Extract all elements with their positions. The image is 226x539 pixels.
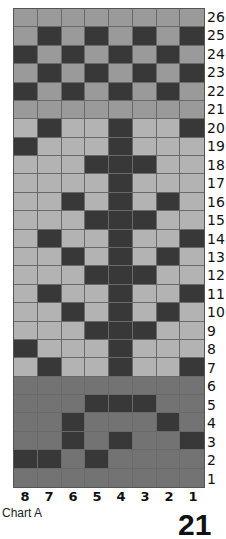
row-number: 17 xyxy=(207,174,226,192)
chart-cell xyxy=(133,193,157,211)
chart-cell xyxy=(157,83,181,101)
chart-cell xyxy=(14,119,38,137)
chart-cell xyxy=(180,211,204,229)
chart-cell xyxy=(133,469,157,487)
chart-cell xyxy=(133,119,157,137)
row-numbers: 2625242322212019181716151413121110987654… xyxy=(207,8,226,488)
chart-cell xyxy=(62,174,86,192)
chart-cell xyxy=(14,358,38,376)
chart-cell xyxy=(157,266,181,284)
row-number: 23 xyxy=(207,63,226,81)
chart-cell xyxy=(133,156,157,174)
chart-cell xyxy=(14,101,38,119)
chart-cell xyxy=(14,46,38,64)
chart-cell xyxy=(62,395,86,413)
chart-cell xyxy=(14,193,38,211)
chart-cell xyxy=(14,156,38,174)
chart-cell xyxy=(14,27,38,45)
chart-cell xyxy=(133,27,157,45)
chart-cell xyxy=(180,46,204,64)
chart-cell xyxy=(109,83,133,101)
column-number: 2 xyxy=(157,489,181,504)
chart-cell xyxy=(180,322,204,340)
chart-cell xyxy=(38,377,62,395)
chart-cell xyxy=(180,450,204,468)
chart-cell xyxy=(85,285,109,303)
chart-cell xyxy=(133,46,157,64)
chart-cell xyxy=(180,266,204,284)
chart-cell xyxy=(133,377,157,395)
chart-cell xyxy=(62,138,86,156)
chart-cell xyxy=(109,469,133,487)
chart-cell xyxy=(109,211,133,229)
chart-cell xyxy=(133,340,157,358)
chart-cell xyxy=(62,64,86,82)
chart-cell xyxy=(38,64,62,82)
chart-cell xyxy=(180,413,204,431)
chart-cell xyxy=(85,138,109,156)
chart-cell xyxy=(38,230,62,248)
chart-cell xyxy=(157,248,181,266)
chart-cell xyxy=(133,413,157,431)
chart-cell xyxy=(85,174,109,192)
chart-cell xyxy=(157,156,181,174)
chart-cell xyxy=(180,119,204,137)
chart-cell xyxy=(85,303,109,321)
row-number: 22 xyxy=(207,82,226,100)
chart-cell xyxy=(62,27,86,45)
chart-cell xyxy=(14,266,38,284)
chart-cell xyxy=(157,469,181,487)
chart-caption: Chart A xyxy=(2,506,42,520)
chart-cell xyxy=(85,340,109,358)
row-number: 19 xyxy=(207,137,226,155)
chart-cell xyxy=(109,138,133,156)
row-number: 15 xyxy=(207,211,226,229)
chart-cell xyxy=(133,9,157,27)
chart-cell xyxy=(180,248,204,266)
chart-cell xyxy=(14,230,38,248)
column-number: 8 xyxy=(13,489,37,504)
knitting-chart xyxy=(13,8,205,488)
chart-cell xyxy=(109,193,133,211)
chart-cell xyxy=(157,138,181,156)
chart-cell xyxy=(62,266,86,284)
chart-cell xyxy=(85,358,109,376)
chart-cell xyxy=(133,285,157,303)
chart-cell xyxy=(157,174,181,192)
chart-cell xyxy=(157,211,181,229)
chart-cell xyxy=(109,156,133,174)
chart-cell xyxy=(157,285,181,303)
chart-cell xyxy=(109,340,133,358)
chart-cell xyxy=(109,377,133,395)
chart-cell xyxy=(109,266,133,284)
chart-cell xyxy=(133,358,157,376)
chart-cell xyxy=(133,432,157,450)
chart-cell xyxy=(133,322,157,340)
chart-cell xyxy=(62,248,86,266)
chart-cell xyxy=(109,174,133,192)
chart-cell xyxy=(62,119,86,137)
chart-cell xyxy=(14,395,38,413)
chart-cell xyxy=(109,395,133,413)
chart-cell xyxy=(14,211,38,229)
chart-cell xyxy=(109,27,133,45)
page-number: 21 xyxy=(178,510,211,539)
chart-cell xyxy=(14,174,38,192)
chart-cell xyxy=(109,46,133,64)
chart-cell xyxy=(180,432,204,450)
chart-cell xyxy=(180,285,204,303)
chart-cell xyxy=(133,101,157,119)
chart-cell xyxy=(62,303,86,321)
chart-cell xyxy=(62,285,86,303)
chart-cell xyxy=(14,64,38,82)
row-number: 10 xyxy=(207,303,226,321)
chart-cell xyxy=(62,450,86,468)
chart-cell xyxy=(133,303,157,321)
column-numbers: 87654321 xyxy=(13,489,205,504)
row-number: 24 xyxy=(207,45,226,63)
chart-cell xyxy=(85,450,109,468)
chart-cell xyxy=(180,83,204,101)
chart-cell xyxy=(157,193,181,211)
chart-cell xyxy=(14,413,38,431)
chart-cell xyxy=(109,119,133,137)
